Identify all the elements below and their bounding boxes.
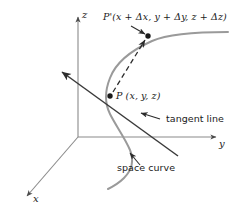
- tangent-line-leader: [141, 113, 160, 119]
- space-curve-label: space curve: [117, 163, 175, 173]
- point-P-label: P (x, y, z): [116, 91, 160, 101]
- z-axis-label: z: [82, 10, 87, 20]
- point-P-prime-marker: [145, 33, 150, 38]
- point-P-prime-label: P'(x + Δx, y + Δy, z + Δz): [103, 12, 227, 22]
- point-P-marker: [107, 93, 112, 98]
- x-axis-label: x: [33, 194, 39, 204]
- tangent-line-path: [62, 72, 178, 156]
- p-prime-leader-line: [131, 26, 145, 34]
- y-axis-label: y: [219, 139, 225, 149]
- x-axis: [27, 137, 78, 196]
- tangent-line-label: tangent line: [166, 114, 224, 124]
- space-curve-diagram: [0, 0, 236, 217]
- figure-container: P'(x + Δx, y + Δy, z + Δz) P (x, y, z) t…: [0, 0, 236, 217]
